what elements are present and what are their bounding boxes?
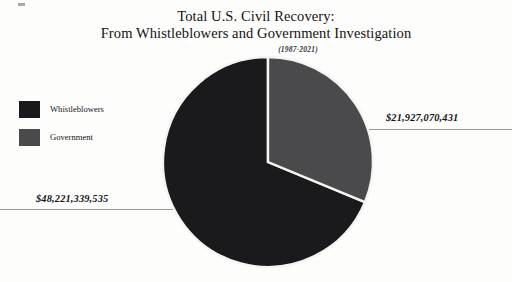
chart-page: Total U.S. Civil Recovery: From Whistleb… (0, 0, 512, 282)
pie-chart-graphic (0, 0, 512, 282)
value-label-government: $21,927,070,431 (386, 112, 458, 123)
value-label-whistleblowers: $48,221,339,535 (36, 193, 108, 204)
